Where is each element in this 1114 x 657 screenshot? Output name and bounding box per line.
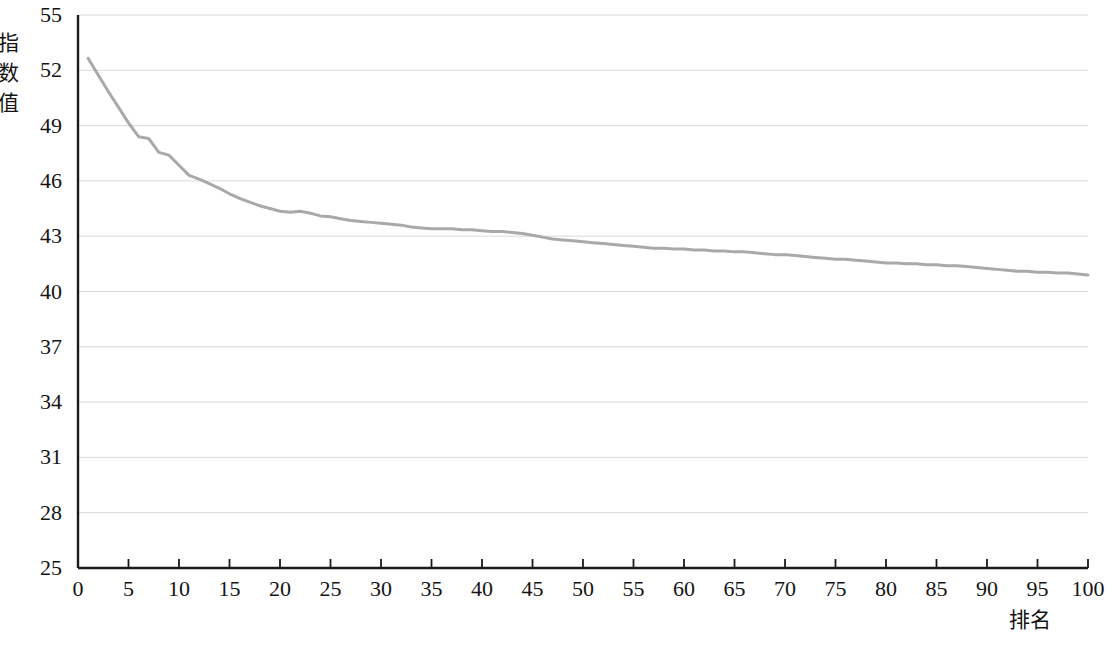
x-axis-tick-label: 100 — [1058, 578, 1114, 600]
plot-area — [0, 0, 1114, 657]
y-axis-tick-label: 46 — [16, 170, 62, 192]
line-chart: 指数值 2528313437404346495255 0510152025303… — [0, 0, 1114, 657]
x-axis-ticks — [78, 559, 1088, 568]
y-axis-tick-label: 40 — [16, 281, 62, 303]
y-axis-tick-label: 31 — [16, 446, 62, 468]
y-axis-tick-label: 28 — [16, 502, 62, 524]
y-axis-tick-label: 34 — [16, 391, 62, 413]
data-series-line — [88, 58, 1088, 275]
y-axis-tick-label: 52 — [16, 59, 62, 81]
y-axis-tick-label: 55 — [16, 4, 62, 26]
y-axis-tick-label: 49 — [16, 115, 62, 137]
y-axis-tick-label: 43 — [16, 225, 62, 247]
y-axis-tick-label: 37 — [16, 336, 62, 358]
y-axis-tick-label: 25 — [16, 557, 62, 579]
x-axis-title: 排名 — [1009, 608, 1051, 632]
